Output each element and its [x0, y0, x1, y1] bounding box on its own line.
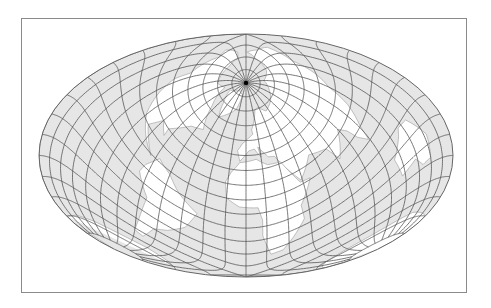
world-map [0, 0, 491, 308]
north-pole-marker [244, 81, 248, 85]
